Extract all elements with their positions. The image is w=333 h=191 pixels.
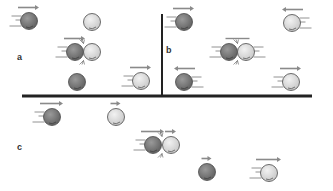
- panel-label-b: b: [166, 45, 172, 55]
- stage-collision: [56, 36, 101, 65]
- diagram-canvas: [0, 0, 333, 191]
- light-ball: [272, 66, 302, 91]
- stage-collision: [134, 129, 180, 158]
- panel-b: [165, 6, 312, 91]
- arrow-right-icon: [165, 129, 176, 134]
- dark-ball: [165, 6, 195, 31]
- arrow-right-icon: [202, 156, 212, 161]
- light-ball: [163, 129, 180, 154]
- arrow-right-icon: [280, 66, 301, 71]
- stage-collision: [210, 39, 266, 65]
- speed-lines-icon: [192, 77, 204, 87]
- stage-before: [165, 6, 312, 32]
- arrow-right-icon: [40, 101, 63, 106]
- stage-after: [69, 65, 152, 91]
- dark-ball: [134, 129, 165, 154]
- speed-lines-icon: [122, 76, 134, 86]
- light-ball: [84, 44, 101, 61]
- arrow-right-icon: [111, 101, 121, 106]
- arrow-right-icon: [256, 157, 281, 162]
- stage-after: [199, 156, 282, 182]
- panel-dividers: [22, 14, 312, 96]
- panel-a: [10, 5, 152, 91]
- arrow-right-icon: [18, 5, 39, 10]
- dark-ball: [10, 5, 40, 30]
- speed-lines-icon: [134, 140, 146, 150]
- speed-lines-icon: [250, 168, 262, 178]
- light-ball: [282, 7, 312, 32]
- speed-lines-icon: [33, 112, 45, 122]
- speed-lines-icon: [165, 17, 177, 27]
- panel-label-a: a: [17, 52, 22, 62]
- speed-lines-icon: [56, 47, 68, 57]
- light-ball: [108, 101, 125, 126]
- dark-ball: [69, 74, 86, 91]
- speed-lines-icon: [272, 77, 284, 87]
- stage-before: [10, 5, 101, 31]
- panel-label-c: c: [17, 142, 22, 152]
- arrow-left-icon: [282, 7, 303, 12]
- light-ball: [84, 14, 101, 31]
- dark-ball: [174, 66, 204, 91]
- light-ball: [250, 157, 282, 182]
- dark-ball: [199, 156, 216, 181]
- light-ball: [238, 44, 266, 61]
- light-ball: [122, 65, 152, 90]
- dark-ball: [210, 44, 238, 61]
- arrow-right-icon: [173, 6, 194, 11]
- dark-ball: [56, 36, 86, 61]
- stage-after: [174, 66, 301, 91]
- speed-lines-icon: [210, 47, 222, 57]
- stage-before: [33, 101, 125, 126]
- panel-c: [33, 101, 282, 182]
- dark-ball: [33, 101, 64, 126]
- balls-layer: [10, 5, 312, 182]
- arrow-right-icon: [64, 36, 85, 41]
- arrow-right-icon: [130, 65, 151, 70]
- speed-lines-icon: [254, 47, 266, 57]
- arrow-left-icon: [174, 66, 195, 71]
- speed-lines-icon: [300, 18, 312, 28]
- speed-lines-icon: [10, 16, 22, 26]
